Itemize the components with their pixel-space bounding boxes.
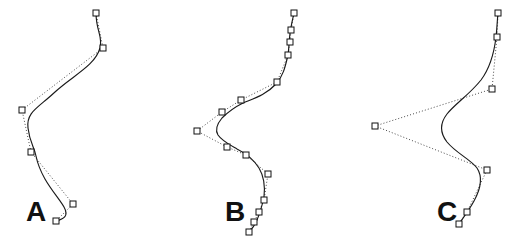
control-point-marker[interactable]: [495, 10, 501, 16]
control-point-marker[interactable]: [100, 45, 106, 51]
bspline-figure-canvas: A B C: [0, 0, 518, 242]
control-point-marker[interactable]: [53, 218, 59, 224]
panel-b-group: B: [194, 10, 297, 235]
control-point-marker[interactable]: [287, 39, 293, 45]
control-point-marker[interactable]: [285, 52, 291, 58]
control-point-marker[interactable]: [274, 79, 280, 85]
bspline-curve-c: [442, 13, 498, 224]
bspline-curve-a: [28, 13, 101, 221]
figure-root: A B C: [0, 0, 518, 242]
panel-label-c: C: [437, 196, 458, 227]
control-polygon-c: [375, 13, 498, 224]
control-point-marker[interactable]: [261, 197, 267, 203]
control-point-marker[interactable]: [494, 34, 500, 40]
control-point-marker[interactable]: [93, 10, 99, 16]
control-point-marker[interactable]: [251, 219, 257, 225]
panel-label-b: B: [225, 196, 246, 227]
control-point-marker[interactable]: [238, 97, 244, 103]
control-point-marker[interactable]: [464, 209, 470, 215]
control-point-marker[interactable]: [265, 171, 271, 177]
panel-a-group: A: [19, 10, 106, 227]
control-point-marker[interactable]: [372, 123, 378, 129]
control-point-marker[interactable]: [28, 149, 34, 155]
control-points-a: [19, 10, 106, 224]
control-point-marker[interactable]: [246, 229, 252, 235]
control-point-marker[interactable]: [194, 128, 200, 134]
control-point-marker[interactable]: [70, 201, 76, 207]
panel-c-group: C: [372, 10, 501, 227]
control-point-marker[interactable]: [291, 10, 297, 16]
panel-label-a: A: [26, 196, 47, 227]
control-polygon-a: [22, 13, 103, 221]
control-point-marker[interactable]: [219, 109, 225, 115]
control-point-marker[interactable]: [288, 27, 294, 33]
control-point-marker[interactable]: [489, 86, 495, 92]
control-points-c: [372, 10, 501, 227]
control-point-marker[interactable]: [19, 107, 25, 113]
control-point-marker[interactable]: [224, 144, 230, 150]
control-point-marker[interactable]: [256, 209, 262, 215]
control-point-marker[interactable]: [484, 167, 490, 173]
control-point-marker[interactable]: [243, 152, 249, 158]
